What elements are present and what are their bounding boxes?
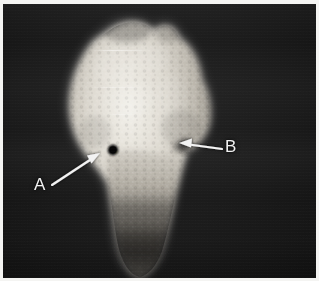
- annotation-layer: A B: [3, 4, 316, 278]
- annotation-arrows: [3, 4, 316, 278]
- arrow-a: [52, 153, 100, 185]
- figure-root: A B: [0, 0, 319, 281]
- annotation-label-a: A: [34, 176, 45, 193]
- arrow-b: [179, 139, 222, 150]
- radiograph-panel: A B: [3, 4, 316, 278]
- annotation-label-b: B: [225, 138, 236, 155]
